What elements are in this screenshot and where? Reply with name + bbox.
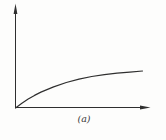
- x-axis-arrowhead: [140, 105, 151, 109]
- figure-canvas: (a): [0, 0, 166, 140]
- y-axis-arrowhead: [14, 4, 18, 15]
- figure-panel-a: (a): [0, 0, 166, 140]
- saturating-curve: [16, 71, 143, 108]
- figure-caption: (a): [77, 113, 90, 124]
